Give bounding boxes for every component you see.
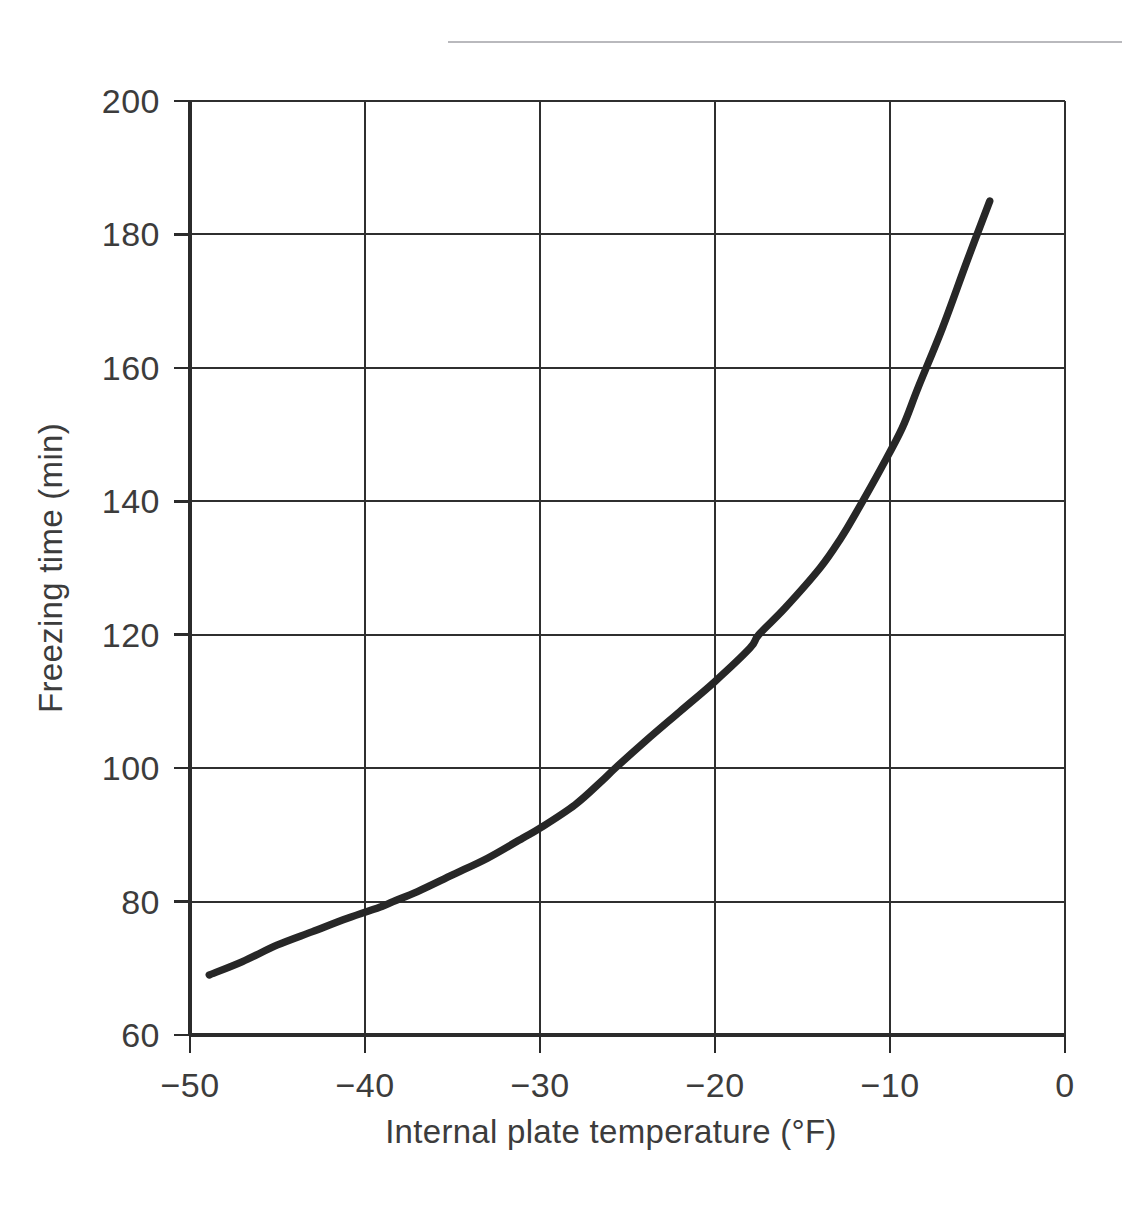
y-tick-label-120: 120 <box>102 616 160 654</box>
vertical-gridlines <box>365 101 1065 1035</box>
y-tick-label-160: 160 <box>102 349 160 387</box>
x-tick-label--20: −20 <box>685 1066 744 1104</box>
figure-page: 6080100120140160180200 −50−40−30−20−100 … <box>0 0 1122 1212</box>
y-tick-label-180: 180 <box>102 215 160 253</box>
x-tick-label--30: −30 <box>510 1066 569 1104</box>
y-axis-tick-labels: 6080100120140160180200 <box>102 82 160 1054</box>
y-axis-tick-marks <box>174 101 190 1035</box>
x-tick-label-0: 0 <box>1055 1066 1074 1104</box>
freezing-time-chart: 6080100120140160180200 −50−40−30−20−100 … <box>0 0 1122 1212</box>
y-tick-label-60: 60 <box>121 1016 160 1054</box>
y-tick-label-80: 80 <box>121 883 160 921</box>
horizontal-gridlines <box>190 101 1065 902</box>
x-tick-label--40: −40 <box>335 1066 394 1104</box>
x-axis-tick-labels: −50−40−30−20−100 <box>160 1066 1074 1104</box>
y-axis-title: Freezing time (min) <box>32 423 69 713</box>
x-axis-title: Internal plate temperature (°F) <box>385 1113 837 1150</box>
y-tick-label-140: 140 <box>102 482 160 520</box>
y-tick-label-100: 100 <box>102 749 160 787</box>
x-axis-tick-marks <box>190 1035 1065 1053</box>
x-tick-label--10: −10 <box>860 1066 919 1104</box>
y-tick-label-200: 200 <box>102 82 160 120</box>
x-tick-label--50: −50 <box>160 1066 219 1104</box>
data-series-group <box>209 201 990 975</box>
data-series-line-0 <box>209 201 990 975</box>
axis-lines <box>190 101 1065 1035</box>
